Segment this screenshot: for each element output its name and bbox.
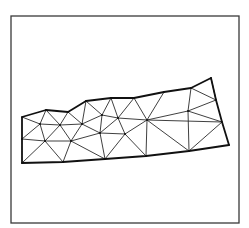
- mesh-node: [110, 97, 112, 99]
- mesh-edge: [105, 134, 125, 159]
- mesh-edge: [146, 120, 147, 156]
- mesh-edge: [188, 111, 189, 151]
- mesh-node: [221, 121, 223, 123]
- mesh-node: [228, 144, 230, 146]
- mesh-edge: [111, 98, 118, 118]
- mesh-node: [99, 132, 101, 134]
- mesh-edge: [102, 98, 111, 115]
- mesh-node: [44, 140, 46, 142]
- mesh-edge: [45, 125, 60, 141]
- mesh-edge: [118, 118, 147, 120]
- mesh-edge: [60, 112, 68, 125]
- mesh-node: [39, 123, 41, 125]
- mesh-edge: [147, 120, 222, 122]
- mesh-node: [104, 158, 106, 160]
- mesh-edge: [71, 141, 105, 159]
- mesh-edge: [118, 118, 125, 134]
- mesh-edge: [60, 125, 71, 141]
- mesh-node: [21, 138, 23, 140]
- mesh-node: [133, 97, 135, 99]
- mesh-node: [62, 161, 64, 163]
- mesh-edge: [188, 111, 222, 122]
- mesh-edge: [134, 98, 147, 120]
- mesh-edge: [125, 134, 146, 156]
- mesh-node: [215, 99, 217, 101]
- mesh-node: [124, 133, 126, 135]
- mesh-edge: [45, 141, 63, 162]
- mesh-edge: [100, 118, 118, 133]
- mesh-edge: [100, 133, 125, 134]
- mesh-edge: [22, 139, 45, 141]
- mesh-node: [163, 91, 165, 93]
- mesh-edge: [40, 124, 60, 125]
- mesh-node: [21, 162, 23, 164]
- figure-frame: [11, 16, 239, 223]
- mesh-edge: [147, 120, 189, 151]
- mesh-node: [188, 150, 190, 152]
- mesh-node: [190, 87, 192, 89]
- mesh-edge: [82, 124, 100, 133]
- mesh-edge: [60, 124, 82, 125]
- mesh-node: [85, 100, 87, 102]
- mesh-edge: [22, 117, 40, 124]
- mesh-edge: [188, 88, 191, 111]
- mesh-edge: [188, 100, 216, 111]
- mesh-node: [59, 124, 61, 126]
- mesh-edge: [82, 115, 102, 124]
- mesh-edge: [125, 120, 147, 134]
- mesh-edge: [22, 124, 40, 139]
- mesh-edge: [191, 88, 216, 100]
- mesh-edge: [82, 101, 86, 124]
- mesh-edge: [68, 112, 82, 124]
- mesh-edge: [40, 124, 45, 141]
- mesh-node: [21, 116, 23, 118]
- mesh-nodes: [21, 77, 230, 164]
- mesh-edge: [100, 115, 102, 133]
- mesh-edge: [46, 110, 60, 125]
- mesh-node: [101, 114, 103, 116]
- mesh-node: [70, 140, 72, 142]
- mesh-edge: [102, 115, 118, 118]
- mesh-edge: [118, 98, 134, 118]
- mesh-edge: [22, 141, 45, 163]
- mesh-node: [145, 155, 147, 157]
- mesh-edge: [147, 111, 188, 120]
- mesh-node: [210, 77, 212, 79]
- mesh-node: [117, 117, 119, 119]
- triangular-mesh-figure: [0, 0, 249, 228]
- mesh-node: [187, 110, 189, 112]
- mesh-node: [81, 123, 83, 125]
- mesh-edge: [147, 92, 164, 120]
- mesh-node: [67, 111, 69, 113]
- mesh-edge: [63, 141, 71, 162]
- mesh-edge: [100, 133, 105, 159]
- mesh-edge: [86, 101, 102, 115]
- mesh-node: [146, 119, 148, 121]
- mesh-node: [45, 109, 47, 111]
